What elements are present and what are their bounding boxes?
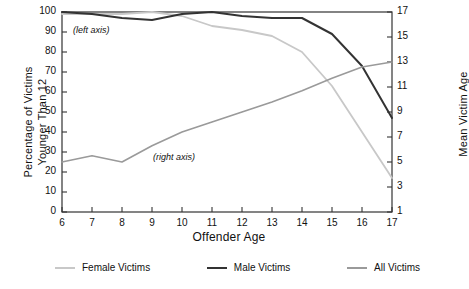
y-axis-left-tick-20: 20 (34, 165, 56, 176)
legend-label: Male Victims (234, 262, 291, 273)
x-axis-tick-16: 16 (352, 217, 372, 228)
y-axis-right-title: Mean Victim Age (457, 19, 469, 209)
y-axis-right-tick-7: 7 (397, 130, 419, 141)
x-axis-tick-9: 9 (142, 217, 162, 228)
y-axis-right-tick-13: 13 (397, 55, 419, 66)
legend-swatch-icon (55, 267, 75, 269)
y-axis-left-tick-70: 70 (34, 65, 56, 76)
y-axis-right-tick-5: 5 (397, 155, 419, 166)
legend-label: All Victims (374, 262, 420, 273)
y-axis-left-tick-80: 80 (34, 45, 56, 56)
y-axis-left-tick-30: 30 (34, 145, 56, 156)
legend-item-male-victims[interactable]: Male Victims (207, 262, 291, 273)
x-axis-tick-11: 11 (202, 217, 222, 228)
legend-item-all-victims[interactable]: All Victims (347, 262, 420, 273)
y-axis-left-tick-90: 90 (34, 25, 56, 36)
chart-legend: Female VictimsMale VictimsAll Victims (55, 262, 420, 273)
x-axis-tick-10: 10 (172, 217, 192, 228)
legend-item-female-victims[interactable]: Female Victims (55, 262, 150, 273)
y-axis-left-tick-10: 10 (34, 185, 56, 196)
y-axis-right-tick-3: 3 (397, 180, 419, 191)
y-axis-right-tick-11: 11 (397, 80, 419, 91)
y-axis-right-tick-9: 9 (397, 105, 419, 116)
x-axis-tick-15: 15 (322, 217, 342, 228)
y-axis-left-tick-60: 60 (34, 85, 56, 96)
y-axis-right-tick-17: 17 (397, 5, 419, 16)
x-axis-tick-17: 17 (382, 217, 402, 228)
x-axis-tick-6: 6 (52, 217, 72, 228)
y-axis-left-tick-50: 50 (34, 105, 56, 116)
legend-label: Female Victims (82, 262, 150, 273)
x-axis-tick-14: 14 (292, 217, 312, 228)
x-axis-tick-12: 12 (232, 217, 252, 228)
legend-swatch-icon (347, 267, 367, 269)
plot-frame (62, 12, 392, 212)
annotation-right-axis: (right axis) (153, 152, 195, 162)
y-axis-right-tick-1: 1 (397, 205, 419, 216)
y-axis-left-tick-100: 100 (34, 5, 56, 16)
x-axis-title: Offender Age (0, 230, 458, 244)
y-axis-left-tick-0: 0 (34, 205, 56, 216)
y-axis-right-tick-15: 15 (397, 30, 419, 41)
x-axis-tick-7: 7 (82, 217, 102, 228)
annotation-left-axis: (left axis) (73, 25, 110, 35)
x-axis-tick-13: 13 (262, 217, 282, 228)
y-axis-left-tick-40: 40 (34, 125, 56, 136)
x-axis-tick-8: 8 (112, 217, 132, 228)
y-axis-left-title-line1: Percentage of Victims (21, 27, 35, 217)
legend-swatch-icon (207, 267, 227, 269)
